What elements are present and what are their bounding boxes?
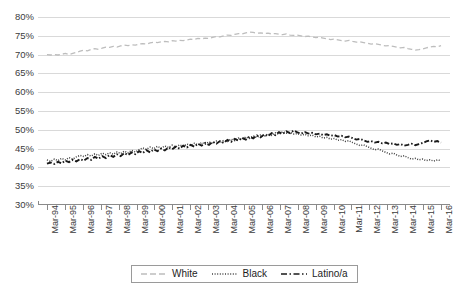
y-axis-tick-label: 75%	[15, 31, 34, 41]
x-axis-tick-label: Mar-14	[409, 205, 418, 234]
x-axis-tick-label: Mar-95	[69, 205, 78, 234]
y-axis-labels: 80%75%70%65%60%55%50%45%40%35%30%	[0, 0, 36, 215]
dashdot-line-swatch	[281, 270, 307, 278]
legend-item-white[interactable]: White	[141, 269, 198, 279]
y-axis-tick-label: 40%	[15, 163, 34, 173]
y-axis-tick-label: 50%	[15, 125, 34, 135]
dotted-line-swatch	[212, 270, 238, 278]
x-axis-labels: Mar-94Mar-95Mar-96Mar-97Mar-98Mar-99Mar-…	[38, 205, 450, 265]
y-axis-tick-label: 35%	[15, 181, 34, 191]
y-axis-tick-label: 55%	[15, 106, 34, 116]
x-axis-tick-label: Mar-03	[212, 205, 221, 234]
series-line-black	[47, 132, 441, 162]
y-axis-tick-label: 80%	[15, 12, 34, 22]
x-axis-tick-label: Mar-01	[176, 205, 185, 234]
legend-item-black[interactable]: Black	[212, 269, 267, 279]
x-axis-tick-label: Mar-04	[230, 205, 239, 234]
x-axis-tick-label: Mar-06	[266, 205, 275, 234]
legend-item-latino[interactable]: Latino/a	[281, 269, 348, 279]
series-line-white	[47, 32, 441, 55]
y-axis-tick-label: 30%	[15, 200, 34, 210]
x-axis-tick-label: Mar-98	[123, 205, 132, 234]
y-axis-tick-label: 65%	[15, 69, 34, 79]
x-axis-tick-label: Mar-00	[158, 205, 167, 234]
chart-legend: White Black Latino/a	[131, 265, 358, 283]
x-axis-tick-label: Mar-08	[302, 205, 311, 234]
legend-label-white: White	[172, 269, 198, 279]
x-axis-tick-label: Mar-10	[338, 205, 347, 234]
plot-area: 80%75%70%65%60%55%50%45%40%35%30%	[0, 0, 468, 215]
x-axis-tick-label: Mar-99	[141, 205, 150, 234]
y-axis-tick-label: 70%	[15, 50, 34, 60]
x-axis-tick-label: Mar-16	[445, 205, 454, 234]
x-axis-tick-label: Mar-12	[373, 205, 382, 234]
x-axis-tick-label: Mar-07	[284, 205, 293, 234]
y-axis-tick-label: 60%	[15, 87, 34, 97]
x-axis-tick-label: Mar-02	[194, 205, 203, 234]
x-axis-tick-label: Mar-05	[248, 205, 257, 234]
x-axis-tick-label: Mar-13	[391, 205, 400, 234]
x-axis-tick-label: Mar-96	[87, 205, 96, 234]
series-lines	[38, 0, 450, 215]
legend-label-black: Black	[243, 269, 267, 279]
legend-label-latino: Latino/a	[312, 269, 348, 279]
dashed-line-swatch	[141, 270, 167, 278]
x-axis-tick-label: Mar-09	[320, 205, 329, 234]
y-axis-tick-label: 45%	[15, 144, 34, 154]
x-axis-tick-label: Mar-97	[105, 205, 114, 234]
x-axis-tick-label: Mar-15	[427, 205, 436, 234]
series-line-latino-a	[47, 131, 441, 164]
chart-root: 80%75%70%65%60%55%50%45%40%35%30% Mar-94…	[0, 0, 468, 293]
x-axis-tick-label: Mar-11	[355, 205, 364, 233]
x-axis-tick-label: Mar-94	[51, 205, 60, 234]
